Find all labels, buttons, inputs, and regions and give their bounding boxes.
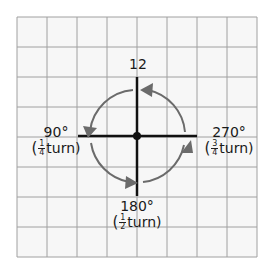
fraction-three-quarters: 34: [211, 140, 218, 157]
label-90-turn: (14turn): [28, 140, 84, 157]
label-270-turn: (34turn): [198, 140, 260, 157]
label-90: 90° (14turn): [28, 125, 84, 157]
label-180-turn: (12turn): [106, 214, 168, 231]
label-270: 270° (34turn): [198, 125, 260, 157]
label-12: 12: [127, 57, 149, 72]
label-180: 180° (12turn): [106, 199, 168, 231]
center-point: [133, 132, 141, 140]
fraction-half: 12: [119, 214, 126, 231]
fraction-quarter: 14: [38, 140, 45, 157]
